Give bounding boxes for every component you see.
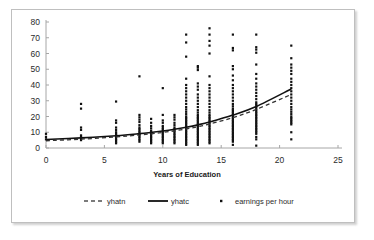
scatter-point xyxy=(115,100,117,102)
scatter-point xyxy=(290,70,292,72)
scatter-point xyxy=(255,136,257,138)
legend-label: yhatn xyxy=(107,197,125,206)
scatter-point xyxy=(150,125,152,127)
scatter-point xyxy=(255,34,257,36)
scatter-point xyxy=(290,93,292,95)
scatter-point xyxy=(208,52,210,54)
scatter-point xyxy=(185,100,187,102)
scatter-point xyxy=(208,75,210,77)
scatter-point xyxy=(162,119,164,121)
scatter-point xyxy=(208,84,210,86)
scatter-point xyxy=(173,142,175,144)
scatter-point xyxy=(197,100,199,102)
scatter-point xyxy=(162,122,164,124)
x-tick-label: 10 xyxy=(158,155,168,165)
scatter-point xyxy=(150,127,152,129)
scatter-point xyxy=(45,136,47,138)
scatter-point xyxy=(290,45,292,47)
chart-svg: 01020304050607080 0510152025 Years of Ed… xyxy=(0,0,374,240)
scatter-point xyxy=(197,85,199,87)
scatter-point xyxy=(185,111,187,113)
scatter-point xyxy=(290,78,292,80)
scatter-point xyxy=(173,119,175,121)
y-tick-label: 70 xyxy=(31,33,41,43)
scatter-point xyxy=(208,34,210,36)
series-line-yhatn xyxy=(46,94,291,140)
scatter-point xyxy=(162,114,164,116)
x-tick-label: 0 xyxy=(44,155,49,165)
scatter-point xyxy=(232,68,234,70)
y-tick-label: 60 xyxy=(31,49,41,59)
scatter-point xyxy=(197,144,199,146)
scatter-point xyxy=(185,41,187,43)
scatter-point xyxy=(232,141,234,143)
scatter-points xyxy=(45,27,292,147)
scatter-point xyxy=(232,90,234,92)
scatter-point xyxy=(232,34,234,36)
scatter-point xyxy=(197,89,199,91)
scatter-point xyxy=(80,126,82,128)
scatter-point xyxy=(255,85,257,87)
scatter-point xyxy=(115,122,117,124)
scatter-point xyxy=(80,108,82,110)
scatter-point xyxy=(197,103,199,105)
scatter-point xyxy=(45,133,47,135)
scatter-point xyxy=(150,142,152,144)
scatter-point xyxy=(197,106,199,108)
x-tick-label: 25 xyxy=(333,155,343,165)
scatter-point xyxy=(115,142,117,144)
scatter-point xyxy=(197,67,199,69)
chart-legend: yhatnyhatcearnings per hour xyxy=(84,197,294,206)
scatter-point xyxy=(138,141,140,143)
scatter-point xyxy=(173,122,175,124)
scatter-point xyxy=(255,52,257,54)
scatter-point xyxy=(232,84,234,86)
scatter-point xyxy=(290,81,292,83)
y-tick-label: 20 xyxy=(31,112,41,122)
scatter-point xyxy=(150,118,152,120)
scatter-point xyxy=(208,97,210,99)
y-axis-tick-labels: 01020304050607080 xyxy=(31,17,41,153)
scatter-point xyxy=(290,108,292,110)
yhatn-line xyxy=(46,94,291,140)
scatter-point xyxy=(185,93,187,95)
scatter-plot: 01020304050607080 0510152025 Years of Ed… xyxy=(0,0,374,240)
scatter-point xyxy=(255,95,257,97)
scatter-point xyxy=(115,129,117,131)
scatter-point xyxy=(173,124,175,126)
scatter-point xyxy=(255,48,257,50)
scatter-point xyxy=(232,87,234,89)
scatter-point xyxy=(197,111,199,113)
scatter-point xyxy=(185,108,187,110)
scatter-point xyxy=(208,109,210,111)
x-tick-label: 15 xyxy=(216,155,226,165)
scatter-point xyxy=(80,103,82,105)
scatter-point xyxy=(197,93,199,95)
scatter-point xyxy=(185,56,187,58)
scatter-point xyxy=(185,106,187,108)
scatter-point xyxy=(232,93,234,95)
scatter-point xyxy=(185,90,187,92)
scatter-point xyxy=(290,63,292,65)
scatter-point xyxy=(290,138,292,140)
scatter-point xyxy=(138,121,140,123)
scatter-point xyxy=(208,93,210,95)
scatter-point xyxy=(255,89,257,91)
scatter-point xyxy=(185,113,187,115)
scatter-point xyxy=(232,100,234,102)
scatter-point xyxy=(173,114,175,116)
scatter-point xyxy=(185,84,187,86)
scatter-point xyxy=(255,82,257,84)
legend-label: earnings per hour xyxy=(235,197,294,206)
scatter-point xyxy=(197,82,199,84)
scatter-point xyxy=(173,116,175,118)
scatter-point xyxy=(197,109,199,111)
scatter-point xyxy=(232,74,234,76)
scatter-point xyxy=(208,27,210,29)
scatter-point xyxy=(185,34,187,36)
scatter-point xyxy=(197,69,199,71)
scatter-point xyxy=(162,87,164,89)
scatter-point xyxy=(185,78,187,80)
scatter-point xyxy=(232,65,234,67)
scatter-point xyxy=(208,87,210,89)
